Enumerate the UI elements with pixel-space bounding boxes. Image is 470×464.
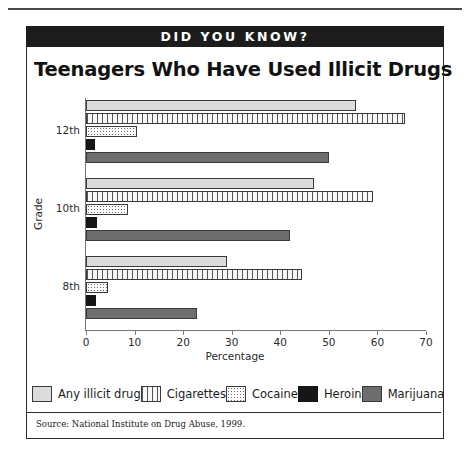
x-tick (183, 331, 184, 335)
bar-8th-cocaine (86, 282, 108, 293)
x-tick-label: 50 (322, 336, 335, 348)
legend-swatch-icon (226, 386, 246, 402)
legend-swatch-icon (141, 386, 161, 402)
bar-8th-any-illicit-drug (86, 256, 227, 267)
x-axis-line (85, 330, 426, 331)
bar-8th-cigarettes (86, 269, 302, 280)
bar-10th-cigarettes (86, 191, 373, 202)
legend-item-cigarettes: Cigarettes (141, 386, 226, 402)
bar-12th-marijuana (86, 152, 329, 163)
x-tick-label: 0 (83, 336, 90, 348)
legend-swatch-icon (32, 386, 52, 402)
bars-area (86, 98, 426, 330)
banner: DID YOU KNOW? (26, 26, 444, 47)
legend-label: Cigarettes (167, 387, 226, 401)
legend-item-cocaine: Cocaine (226, 386, 298, 402)
x-tick-label: 70 (419, 336, 432, 348)
x-tick-label: 30 (225, 336, 238, 348)
x-tick-label: 10 (128, 336, 141, 348)
x-tick (86, 331, 87, 335)
legend-label: Marijuana (388, 387, 445, 401)
legend-item-any-illicit-drug: Any illicit drug (32, 386, 141, 402)
bar-10th-cocaine (86, 204, 128, 215)
bar-10th-marijuana (86, 230, 290, 241)
legend-label: Heroin (324, 387, 362, 401)
source-note: Source: National Institute on Drug Abuse… (36, 419, 245, 429)
x-tick (377, 331, 378, 335)
legend-item-marijuana: Marijuana (362, 386, 445, 402)
bar-8th-marijuana (86, 308, 197, 319)
legend-item-heroin: Heroin (298, 386, 362, 402)
chart-title: Teenagers Who Have Used Illicit Drugs (34, 58, 452, 81)
chart-legend: Any illicit drugCigarettesCocaineHeroinM… (32, 383, 436, 405)
bar-10th-heroin (86, 217, 97, 228)
x-tick (135, 331, 136, 335)
x-tick-label: 40 (274, 336, 287, 348)
y-axis-label-12th: 12th (40, 124, 80, 136)
bar-12th-heroin (86, 139, 95, 150)
x-axis-title: Percentage (0, 350, 470, 362)
legend-label: Cocaine (252, 387, 298, 401)
x-tick (280, 331, 281, 335)
did-you-know-infographic: DID YOU KNOW? Teenagers Who Have Used Il… (0, 0, 470, 464)
y-axis-label-8th: 8th (40, 280, 80, 292)
x-tick (426, 331, 427, 335)
legend-label: Any illicit drug (58, 387, 141, 401)
bar-12th-cocaine (86, 126, 137, 137)
legend-divider (27, 412, 441, 413)
x-tick-label: 20 (176, 336, 189, 348)
bar-8th-heroin (86, 295, 96, 306)
banner-title: DID YOU KNOW? (26, 26, 444, 47)
legend-swatch-icon (362, 386, 382, 402)
bar-12th-cigarettes (86, 113, 405, 124)
y-axis-title: Grade (32, 198, 44, 230)
y-axis-label-10th: 10th (40, 202, 80, 214)
x-tick (232, 331, 233, 335)
bar-12th-any-illicit-drug (86, 100, 356, 111)
legend-swatch-icon (298, 386, 318, 402)
x-tick-label: 60 (371, 336, 384, 348)
top-divider (8, 8, 462, 10)
x-tick (329, 331, 330, 335)
bar-10th-any-illicit-drug (86, 178, 314, 189)
